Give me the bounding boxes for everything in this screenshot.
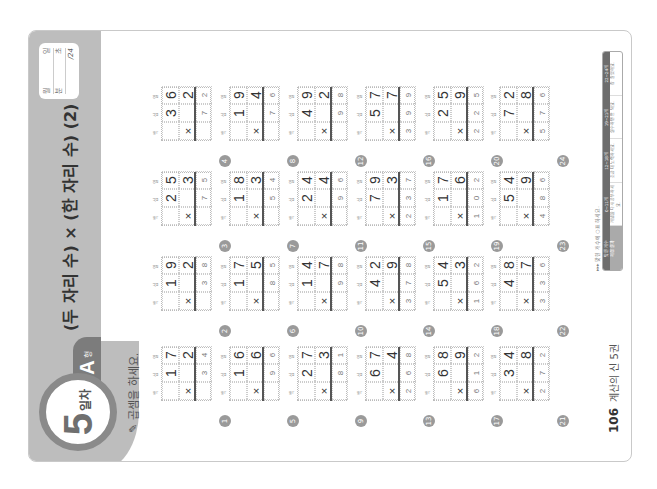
place-labels: 백십일 bbox=[151, 347, 158, 401]
answer-tens[interactable]: 9 bbox=[400, 104, 416, 122]
answer-hundreds[interactable]: 6 bbox=[468, 382, 484, 400]
problem-number: 23 bbox=[557, 240, 569, 252]
multiplicand-tens: 1 bbox=[162, 274, 179, 292]
answer-hundreds[interactable]: 3 bbox=[400, 122, 416, 140]
empty-cell bbox=[298, 292, 315, 310]
answer-hundreds[interactable] bbox=[332, 122, 348, 140]
tens-label: 십 bbox=[489, 275, 496, 293]
answer-hundreds[interactable] bbox=[332, 382, 348, 400]
multiplication-box: 16×696 bbox=[229, 347, 279, 401]
score-cell[interactable]: 참 잘했어요. bbox=[610, 52, 622, 96]
answer-ones[interactable]: 5 bbox=[468, 86, 484, 104]
answer-ones[interactable]: 4 bbox=[264, 171, 280, 189]
answer-ones[interactable]: 6 bbox=[264, 346, 280, 364]
answer-ones[interactable]: 6 bbox=[534, 256, 550, 274]
answer-hundreds[interactable]: 4 bbox=[534, 207, 550, 225]
answer-ones[interactable]: 6 bbox=[332, 171, 348, 189]
answer-ones[interactable]: 7 bbox=[400, 171, 416, 189]
answer-ones[interactable]: 8 bbox=[332, 86, 348, 104]
answer-hundreds[interactable] bbox=[196, 292, 212, 310]
answer-tens[interactable]: 9 bbox=[332, 189, 348, 207]
answer-hundreds[interactable]: 5 bbox=[534, 122, 550, 140]
answer-tens[interactable]: 6 bbox=[400, 364, 416, 382]
answer-tens[interactable]: 6 bbox=[468, 274, 484, 292]
answer-tens[interactable]: 7 bbox=[534, 364, 550, 382]
answer-hundreds[interactable] bbox=[196, 207, 212, 225]
answer-ones[interactable]: 6 bbox=[534, 171, 550, 189]
answer-tens[interactable]: 3 bbox=[196, 364, 212, 382]
answer-ones[interactable]: 6 bbox=[264, 86, 280, 104]
answer-tens[interactable]: 8 bbox=[534, 189, 550, 207]
answer-hundreds[interactable] bbox=[264, 207, 280, 225]
answer-ones[interactable]: 8 bbox=[400, 256, 416, 274]
day-number: 5 bbox=[58, 413, 98, 435]
problem-number: 21 bbox=[557, 415, 569, 427]
multiplicand-tens: 4 bbox=[298, 104, 315, 122]
answer-tens[interactable]: 3 bbox=[534, 274, 550, 292]
hundreds-label: 백 bbox=[423, 383, 430, 401]
multiplicand-ones: 4 bbox=[298, 171, 315, 189]
answer-tens[interactable]: 5 bbox=[264, 189, 280, 207]
answer-tens[interactable]: 7 bbox=[534, 104, 550, 122]
answer-ones[interactable]: 1 bbox=[332, 346, 348, 364]
answer-ones[interactable]: 6 bbox=[534, 86, 550, 104]
multiplicand-tens: 5 bbox=[366, 104, 383, 122]
hundreds-label: 백 bbox=[355, 208, 362, 226]
answer-tens[interactable]: 3 bbox=[196, 274, 212, 292]
score-cell[interactable]: 조금 더 노력하세요. bbox=[610, 139, 622, 183]
answer-ones[interactable]: 2 bbox=[468, 171, 484, 189]
answer-tens[interactable]: 7 bbox=[196, 189, 212, 207]
answer-tens[interactable]: 0 bbox=[468, 189, 484, 207]
hundreds-label: 백 bbox=[489, 208, 496, 226]
score-cell[interactable]: 실수하면 안 돼요. bbox=[610, 96, 622, 140]
answer-hundreds[interactable] bbox=[264, 382, 280, 400]
answer-ones[interactable]: 8 bbox=[196, 256, 212, 274]
answer-hundreds[interactable]: 3 bbox=[400, 292, 416, 310]
multiplicand-ones: 8 bbox=[500, 256, 517, 274]
answer-ones[interactable]: 8 bbox=[400, 346, 416, 364]
multiplicand-tens: 2 bbox=[434, 104, 451, 122]
answer-hundreds[interactable]: 2 bbox=[468, 122, 484, 140]
answer-tens[interactable]: 7 bbox=[196, 104, 212, 122]
answer-hundreds[interactable]: 1 bbox=[468, 292, 484, 310]
answer-tens[interactable]: 7 bbox=[264, 104, 280, 122]
place-labels: 백십일 bbox=[219, 172, 226, 226]
problem-12: 백십일49×29812 bbox=[297, 87, 359, 167]
answer-ones[interactable]: 2 bbox=[196, 86, 212, 104]
answer-ones[interactable]: 8 bbox=[332, 256, 348, 274]
answer-tens[interactable]: 9 bbox=[264, 364, 280, 382]
answer-ones[interactable]: 2 bbox=[534, 346, 550, 364]
answer-hundreds[interactable]: 1 bbox=[468, 207, 484, 225]
answer-ones[interactable]: 2 bbox=[468, 256, 484, 274]
answer-tens[interactable]: 2 bbox=[468, 104, 484, 122]
answer-ones[interactable]: 2 bbox=[468, 346, 484, 364]
multiplicand-ones: 4 bbox=[500, 171, 517, 189]
answer-tens[interactable]: 1 bbox=[468, 364, 484, 382]
answer-ones[interactable]: 4 bbox=[196, 346, 212, 364]
place-labels: 백십일 bbox=[489, 347, 496, 401]
answer-hundreds[interactable]: 2 bbox=[400, 207, 416, 225]
answer-tens[interactable]: 8 bbox=[264, 274, 280, 292]
answer-ones[interactable]: 5 bbox=[264, 256, 280, 274]
answer-ones[interactable]: 5 bbox=[196, 171, 212, 189]
multiplicand-tens: 5 bbox=[434, 274, 451, 292]
tens-label: 십 bbox=[151, 105, 158, 123]
answer-hundreds[interactable] bbox=[196, 382, 212, 400]
answer-hundreds[interactable] bbox=[264, 122, 280, 140]
answer-hundreds[interactable]: 2 bbox=[400, 382, 416, 400]
multiplicand-ones: 9 bbox=[298, 86, 315, 104]
answer-hundreds[interactable] bbox=[332, 207, 348, 225]
ones-label: 일 bbox=[287, 87, 294, 105]
answer-hundreds[interactable] bbox=[332, 292, 348, 310]
score-cell[interactable]: 개념을 다시 공부하세요. bbox=[610, 183, 622, 227]
answer-hundreds[interactable]: 2 bbox=[534, 382, 550, 400]
answer-tens[interactable]: 9 bbox=[332, 104, 348, 122]
answer-tens[interactable]: 3 bbox=[400, 189, 416, 207]
answer-ones[interactable]: 9 bbox=[400, 86, 416, 104]
answer-hundreds[interactable] bbox=[264, 292, 280, 310]
answer-tens[interactable]: 8 bbox=[332, 364, 348, 382]
answer-hundreds[interactable] bbox=[196, 122, 212, 140]
answer-tens[interactable]: 9 bbox=[332, 274, 348, 292]
answer-tens[interactable]: 7 bbox=[400, 274, 416, 292]
answer-hundreds[interactable]: 3 bbox=[534, 292, 550, 310]
